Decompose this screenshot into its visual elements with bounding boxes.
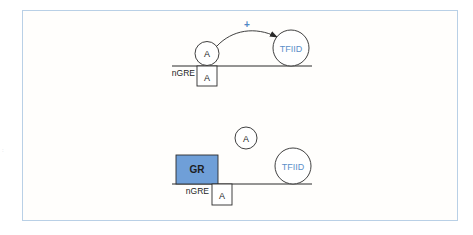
gr-label: GR [190,164,206,175]
gr-repression-diagram: A nGRE A + TFIID GR A nGRE A [0,0,473,235]
activator-circle-top: A [195,42,219,66]
bottom-repression-state: GR A nGRE A TFIID [172,127,312,205]
nGRE-box-label-top: A [204,73,210,83]
displaced-activator-label: A [243,134,249,144]
nGRE-box-top: A [197,66,217,86]
nGRE-box-label-bottom: A [219,191,225,201]
nGRE-label-bottom: nGRE [186,186,209,196]
nGRE-box-bottom: A [212,184,232,205]
activator-label-top: A [204,49,210,59]
tfiid-circle-top: TFIID [273,30,309,66]
tfiid-label-top: TFIID [280,44,303,54]
top-activation-state: A nGRE A + TFIID [172,19,312,86]
displaced-activator-circle: A [235,127,257,149]
gr-box: GR [176,155,218,184]
nGRE-label-top: nGRE [172,68,195,78]
tfiid-circle-bottom: TFIID [275,148,311,184]
activation-arrow [217,31,277,46]
tfiid-label-bottom: TFIID [282,162,305,172]
plus-sign: + [244,19,250,30]
